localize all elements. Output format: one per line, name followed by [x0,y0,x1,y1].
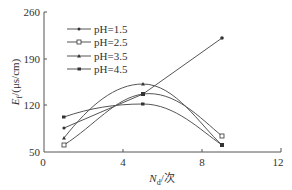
legend-item-ph-3-5: pH=3.5 [67,50,128,62]
square-icon [77,40,81,44]
y-tick-label: 190 [24,53,41,65]
x-tick-label: 8 [199,156,205,168]
marker-square [220,143,224,147]
series-ph-4-5 [64,104,222,145]
marker-dot [62,126,65,129]
legend: pH=1.5 pH=2.5 pH=3.5 pH=4.5 [67,23,128,75]
y-tick-labels: 50 120 190 260 [24,6,41,158]
y-tick-label: 120 [24,99,41,111]
svg-text:pH=2.5: pH=2.5 [94,36,128,48]
marker-square [62,143,66,147]
x-tick-labels: 0 4 8 12 [40,156,283,168]
legend-item-ph-2-5: pH=2.5 [67,36,128,48]
marker-star [62,116,66,119]
marker-dot [220,36,224,40]
legend-item-ph-1-5: pH=1.5 [67,23,128,35]
chart: 50 120 190 260 0 4 8 12 Ef/(μs/cm) Nd/次 [0,0,292,190]
series-markers [62,36,224,147]
marker-square [141,92,145,96]
marker-square [220,134,224,138]
marker-star [141,103,145,106]
svg-text:Nd/次: Nd/次 [148,171,174,187]
svg-text:pH=3.5: pH=3.5 [94,50,128,62]
dot-icon [78,28,81,31]
svg-text:pH=4.5: pH=4.5 [94,63,128,75]
y-tick-label: 260 [24,6,41,18]
x-tick-label: 0 [40,156,46,168]
x-tick-label: 4 [120,156,126,168]
star-icon [78,68,82,71]
y-tick-label: 50 [29,146,41,158]
x-tick-label: 12 [273,156,284,168]
svg-text:pH=1.5: pH=1.5 [94,23,128,35]
axes [44,12,281,152]
x-axis-label: Nd/次 [148,171,174,187]
svg-text:Ef/(μs/cm): Ef/(μs/cm) [9,58,24,106]
legend-item-ph-4-5: pH=4.5 [67,63,128,75]
y-axis-label: Ef/(μs/cm) [9,58,24,106]
series-lines [64,38,222,145]
